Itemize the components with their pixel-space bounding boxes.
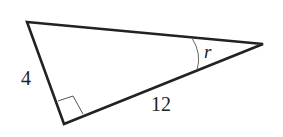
- long-leg-label: 12: [151, 93, 171, 115]
- right-angle-marker: [58, 96, 83, 114]
- angle-arc: [192, 38, 199, 70]
- short-leg-label: 4: [21, 67, 31, 89]
- angle-label: r: [204, 41, 212, 62]
- triangle-diagram: r 4 12: [0, 0, 283, 137]
- triangle: [27, 22, 263, 124]
